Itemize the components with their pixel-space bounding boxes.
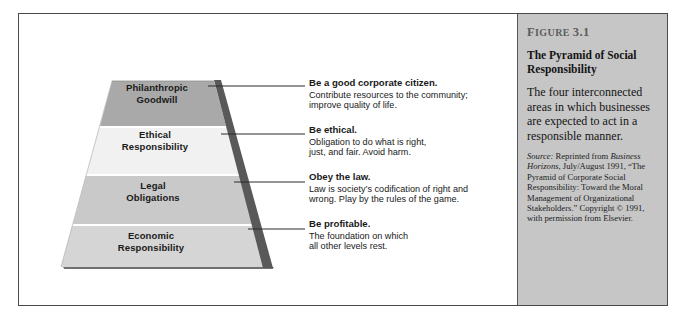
description-heading: Be ethical. — [309, 124, 524, 136]
pyramid-band-ethical — [87, 128, 239, 174]
pyramid-band-legal — [73, 176, 253, 224]
caption-title: The Pyramid of Social Responsibility — [527, 49, 659, 76]
description-body: The foundation on which all other levels… — [309, 231, 524, 253]
pyramid-band-philanthropic — [100, 81, 226, 126]
figure-frame: Philanthropic Goodwill Ethical Responsib… — [18, 13, 668, 306]
caption-source: Source: Reprinted from Business Horizons… — [527, 151, 659, 224]
caption-source-text-1: Reprinted from — [553, 151, 610, 161]
caption-sidebar: FIGURE 3.1 The Pyramid of Social Respons… — [517, 14, 667, 305]
description-heading: Be a good corporate citizen. — [309, 77, 524, 89]
description-philanthropic: Be a good corporate citizen. Contribute … — [309, 77, 524, 111]
description-heading: Obey the law. — [309, 171, 524, 183]
figure-number-value: 3.1 — [573, 25, 590, 39]
description-economic: Be profitable. The foundation on which a… — [309, 218, 524, 252]
caption-body: The four interconnected areas in which b… — [527, 85, 659, 143]
description-heading: Be profitable. — [309, 218, 524, 230]
description-body: Obligation to do what is right, just, an… — [309, 137, 524, 159]
description-ethical: Be ethical. Obligation to do what is rig… — [309, 124, 524, 158]
figure-number-word: FIGURE — [527, 25, 570, 39]
description-body: Contribute resources to the community; i… — [309, 90, 524, 112]
diagram-area: Philanthropic Goodwill Ethical Responsib… — [19, 14, 519, 305]
pyramid-graphic — [29, 54, 289, 269]
description-legal: Obey the law. Law is society’s codificat… — [309, 171, 524, 205]
caption-inner: FIGURE 3.1 The Pyramid of Social Respons… — [527, 25, 659, 295]
figure-number: FIGURE 3.1 — [527, 25, 659, 40]
description-body: Law is society’s codification of right a… — [309, 184, 524, 206]
caption-source-label: Source: — [527, 151, 553, 161]
pyramid-base-shadow — [63, 267, 274, 269]
pyramid-band-economic — [61, 226, 265, 267]
